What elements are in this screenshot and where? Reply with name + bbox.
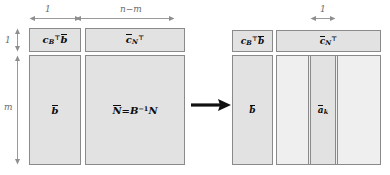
dimension-arrow-left-top-width-1 <box>29 15 81 22</box>
right-arrow-icon <box>190 97 232 113</box>
block-rhs-right: b <box>232 55 273 165</box>
block-reduced-costs-right: cN⊤ <box>276 30 381 52</box>
dimension-label-left-top-width-nm: n−m <box>120 5 142 14</box>
label-constraint-matrix-left: N=B−1N <box>112 105 157 116</box>
dimension-label-right-column-width: 1 <box>320 5 326 14</box>
block-constraint-matrix-left: N=B−1N <box>85 55 185 165</box>
block-pivot-column-right: ak <box>310 55 336 165</box>
block-reduced-costs-left: cN⊤ <box>85 28 185 52</box>
label-rhs-left: b <box>52 105 59 116</box>
label-rhs-right: b <box>249 105 255 115</box>
label-objective-value-left: cB⊤b <box>43 34 68 46</box>
dimension-arrow-right-column-width <box>310 15 336 22</box>
block-objective-value-right: cB⊤b <box>232 30 273 52</box>
block-nonpivot-columns-right-right <box>337 55 381 165</box>
diagram-canvas: 1 n−m 1 m cB⊤b cN⊤ b N=B−1N <box>0 0 390 175</box>
label-pivot-column-right: ak <box>318 105 328 116</box>
block-nonpivot-columns-left-right <box>276 55 309 165</box>
dimension-arrow-left-side-height-m <box>14 55 21 165</box>
label-reduced-costs-left: cN⊤ <box>126 34 144 46</box>
dimension-label-left-side-height-1: 1 <box>5 36 11 45</box>
block-objective-value-left: cB⊤b <box>29 28 81 52</box>
dimension-label-left-top-width-1: 1 <box>45 5 51 14</box>
dimension-arrow-left-top-width-nm <box>75 15 175 22</box>
label-reduced-costs-right: cN⊤ <box>320 36 338 47</box>
block-rhs-left: b <box>29 55 81 165</box>
dimension-label-left-side-height-m: m <box>4 103 13 112</box>
label-objective-value-right: cB⊤b <box>241 36 265 47</box>
dimension-arrow-left-side-height-1 <box>14 28 21 52</box>
